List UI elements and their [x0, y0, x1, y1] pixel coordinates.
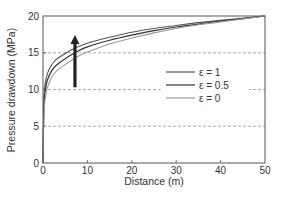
y-axis-label: Pressure drawdown (MPa): [5, 28, 17, 152]
legend-label: ε = 1: [199, 67, 221, 78]
y-tick-label: 15: [28, 47, 40, 58]
x-tick-label: 10: [82, 165, 94, 176]
legend-label: ε = 0.5: [199, 80, 229, 91]
y-tick-label: 10: [28, 84, 40, 95]
x-tick-label: 40: [215, 165, 227, 176]
x-axis-label: Distance (m): [124, 175, 184, 187]
x-tick-label: 50: [259, 165, 271, 176]
legend-label: ε = 0: [199, 93, 221, 104]
y-tick-label: 5: [33, 121, 39, 132]
y-tick-label: 20: [28, 11, 40, 22]
x-tick-label: 0: [40, 165, 46, 176]
increase-arrow-icon: [70, 35, 79, 87]
chart-container: 0102030405005101520 ε = 1ε = 0.5ε = 0 Di…: [0, 0, 282, 206]
legend: ε = 1ε = 0.5ε = 0: [163, 66, 249, 104]
y-tick-label: 0: [33, 158, 39, 169]
